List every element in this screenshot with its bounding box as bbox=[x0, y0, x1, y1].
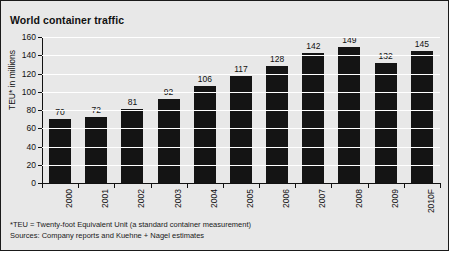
gridline bbox=[42, 55, 440, 56]
x-axis bbox=[42, 183, 440, 184]
y-axis-tick-label: 100 bbox=[22, 87, 36, 97]
y-axis-tick-label: 0 bbox=[31, 178, 36, 188]
bar-value-label: 70 bbox=[55, 107, 64, 117]
gridline bbox=[42, 147, 440, 148]
gridline bbox=[42, 74, 440, 75]
y-axis-tick-label: 20 bbox=[27, 160, 36, 170]
x-axis-label: 2000 bbox=[64, 189, 74, 208]
x-axis-tick bbox=[295, 183, 296, 188]
y-axis-tick-label: 140 bbox=[22, 50, 36, 60]
x-axis-tick bbox=[440, 183, 441, 188]
x-axis-label: 2002 bbox=[136, 189, 146, 208]
y-axis-tick-label: 80 bbox=[27, 105, 36, 115]
y-axis-tick-label: 60 bbox=[27, 123, 36, 133]
x-axis-tick bbox=[151, 183, 152, 188]
x-axis-tick bbox=[404, 183, 405, 188]
x-axis-tick bbox=[187, 183, 188, 188]
x-axis-label: 2007 bbox=[317, 189, 327, 208]
x-axis-label: 2008 bbox=[354, 189, 364, 208]
bar bbox=[338, 47, 360, 183]
x-axis-tick bbox=[42, 183, 43, 188]
bar-value-label: 81 bbox=[128, 97, 137, 107]
x-axis-label: 2006 bbox=[281, 189, 291, 208]
x-axis-label: 2009 bbox=[390, 189, 400, 208]
x-axis-tick bbox=[259, 183, 260, 188]
x-axis-label: 2005 bbox=[245, 189, 255, 208]
plot-area: 70728192106117128142149132145 bbox=[42, 37, 440, 183]
x-axis-tick bbox=[78, 183, 79, 188]
footnotes: *TEU = Twenty-foot Equivalent Unit (a st… bbox=[10, 220, 251, 241]
gridline bbox=[42, 110, 440, 111]
y-axis-tick-label: 40 bbox=[27, 142, 36, 152]
gridline bbox=[42, 92, 440, 93]
chart-figure: World container traffic TEU* in millions… bbox=[0, 0, 449, 251]
bar bbox=[85, 117, 107, 183]
y-axis-title: TEU* in millions bbox=[7, 50, 17, 110]
x-axis-tick bbox=[114, 183, 115, 188]
x-axis-tick bbox=[223, 183, 224, 188]
x-axis-label: 2010F bbox=[426, 189, 436, 213]
y-axis-tick-label: 120 bbox=[22, 69, 36, 79]
x-axis-label: 2001 bbox=[100, 189, 110, 208]
sources-footnote: Sources: Company reports and Kuehne + Na… bbox=[10, 231, 251, 242]
bar-value-label: 145 bbox=[415, 39, 429, 49]
teu-footnote: *TEU = Twenty-foot Equivalent Unit (a st… bbox=[10, 220, 251, 231]
bar-value-label: 142 bbox=[306, 41, 320, 51]
x-axis-tick bbox=[331, 183, 332, 188]
bar bbox=[411, 51, 433, 183]
gridline bbox=[42, 128, 440, 129]
gridline bbox=[42, 37, 440, 38]
bar bbox=[158, 99, 180, 183]
bar-value-label: 106 bbox=[198, 74, 212, 84]
x-axis-label: 2003 bbox=[173, 189, 183, 208]
chart-title: World container traffic bbox=[10, 14, 124, 26]
bar bbox=[194, 86, 216, 183]
x-axis-label: 2004 bbox=[209, 189, 219, 208]
gridline bbox=[42, 165, 440, 166]
y-axis-tick-label: 160 bbox=[22, 32, 36, 42]
x-axis-tick bbox=[368, 183, 369, 188]
